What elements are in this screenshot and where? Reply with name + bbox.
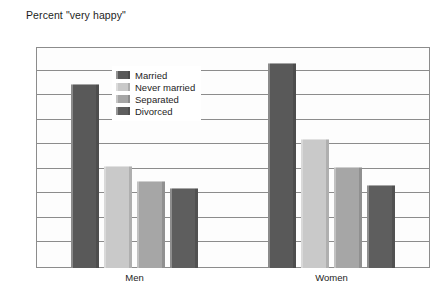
bars-layer [36, 47, 430, 268]
legend-label: Married [135, 70, 167, 82]
bar-cap [104, 166, 132, 167]
bar-men-married [71, 84, 99, 268]
bar-shadow [129, 166, 132, 268]
bar-shadow [96, 84, 99, 268]
bar-highlight [334, 167, 336, 268]
swatch-shadow [128, 95, 130, 103]
legend-label: Never married [135, 82, 195, 94]
bar-women-divorced [367, 185, 395, 268]
swatch-shadow [128, 107, 130, 115]
bar-shadow [392, 185, 395, 268]
swatch-highlight [116, 107, 118, 115]
bar-cap [170, 188, 198, 189]
legend-swatch-icon [116, 95, 130, 103]
bar-men-never-married [104, 166, 132, 268]
legend-item-never-married[interactable]: Never married [116, 82, 195, 94]
swatch-shadow [128, 71, 130, 79]
x-group-label-men: Men [125, 272, 143, 283]
legend-item-separated[interactable]: Separated [116, 94, 195, 106]
legend-swatch-icon [116, 71, 130, 79]
bar-highlight [268, 63, 270, 268]
legend-swatch-icon [116, 107, 130, 115]
chart-legend: MarriedNever marriedSeparatedDivorced [112, 66, 201, 121]
bar-cap [301, 139, 329, 140]
legend-label: Separated [135, 94, 179, 106]
legend-label: Divorced [135, 106, 173, 118]
bar-highlight [71, 84, 73, 268]
bar-shadow [195, 188, 198, 268]
bar-cap [268, 63, 296, 64]
bar-women-never-married [301, 139, 329, 268]
bar-highlight [104, 166, 106, 268]
bar-highlight [170, 188, 172, 268]
bar-cap [71, 84, 99, 85]
bar-women-married [268, 63, 296, 268]
swatch-highlight [116, 95, 118, 103]
bar-chart: Percent "very happy" 051015202530354045 … [0, 0, 440, 296]
bar-men-separated [137, 181, 165, 268]
swatch-shadow [128, 83, 130, 91]
swatch-highlight [116, 71, 118, 79]
bar-cap [367, 185, 395, 186]
bar-cap [137, 181, 165, 182]
bar-shadow [326, 139, 329, 268]
legend-item-divorced[interactable]: Divorced [116, 106, 195, 118]
bar-shadow [293, 63, 296, 268]
legend-swatch-icon [116, 83, 130, 91]
bar-cap [334, 167, 362, 168]
swatch-highlight [116, 83, 118, 91]
bar-women-separated [334, 167, 362, 268]
bar-shadow [162, 181, 165, 268]
bar-highlight [137, 181, 139, 268]
bar-highlight [367, 185, 369, 268]
bar-men-divorced [170, 188, 198, 268]
bar-shadow [359, 167, 362, 268]
bar-highlight [301, 139, 303, 268]
legend-item-married[interactable]: Married [116, 70, 195, 82]
x-group-label-women: Women [315, 272, 348, 283]
